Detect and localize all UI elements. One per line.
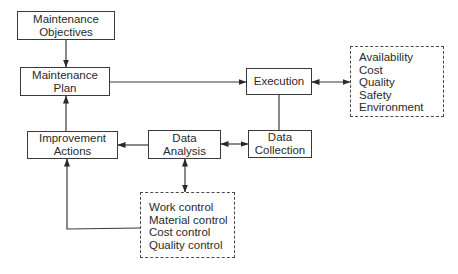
node-label: Plan	[53, 82, 76, 95]
performance-item: Environment	[359, 101, 443, 114]
maintenance-objectives-node: Maintenance Objectives	[17, 11, 115, 40]
node-label: Maintenance	[33, 13, 99, 26]
performance-item: Cost	[359, 64, 443, 77]
node-label: Maintenance	[32, 69, 98, 82]
node-label: Improvement	[39, 132, 106, 145]
node-label: Analysis	[163, 145, 206, 158]
control-item: Material control	[149, 214, 234, 227]
edge-control-to-improvement	[67, 159, 140, 229]
node-label: Actions	[54, 145, 92, 158]
node-label: Collection	[255, 144, 306, 157]
maintenance-plan-node: Maintenance Plan	[20, 67, 110, 96]
node-label: Data	[268, 131, 292, 144]
control-item: Work control	[149, 201, 234, 214]
control-measures-box: Work control Material control Cost contr…	[140, 192, 235, 258]
node-label: Objectives	[39, 26, 93, 39]
control-item: Quality control	[149, 239, 234, 252]
performance-item: Safety	[359, 89, 443, 102]
data-collection-node: Data Collection	[248, 130, 312, 158]
control-item: Cost control	[149, 226, 234, 239]
execution-node: Execution	[246, 68, 312, 95]
performance-item: Availability	[359, 51, 443, 64]
performance-measures-box: Availability Cost Quality Safety Environ…	[350, 46, 444, 117]
data-analysis-node: Data Analysis	[148, 130, 221, 159]
node-label: Data	[172, 132, 196, 145]
improvement-actions-node: Improvement Actions	[27, 131, 118, 159]
node-label: Execution	[254, 75, 305, 88]
performance-item: Quality	[359, 76, 443, 89]
